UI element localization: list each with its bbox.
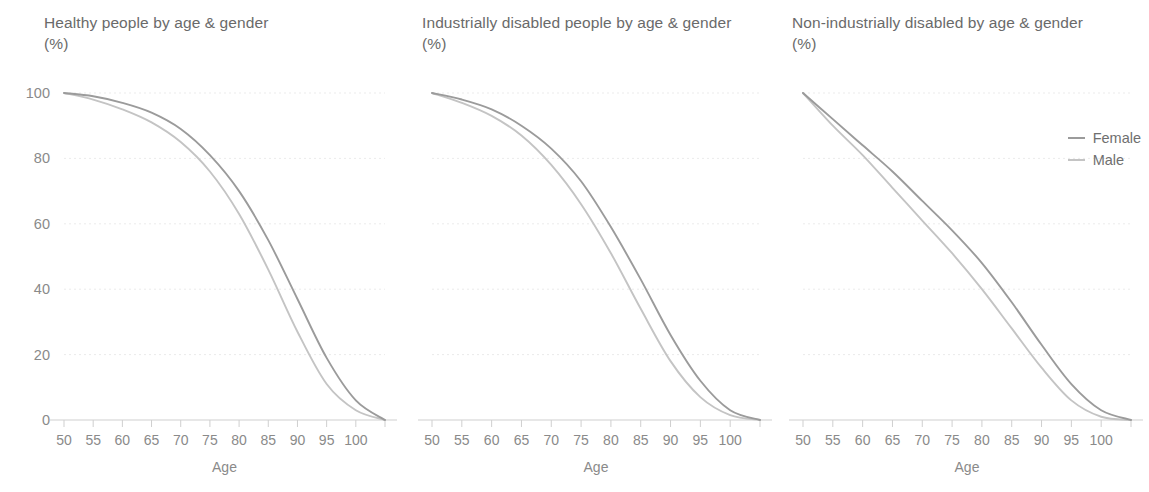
x-axis-tick-label: 90 [663,432,679,448]
x-axis-tick-label: 70 [543,432,559,448]
x-axis-tick-label: 75 [944,432,960,448]
y-axis-tick-label: 20 [34,347,50,363]
x-axis-tick-label: 100 [719,432,743,448]
y-axis-tick-label: 0 [42,412,50,428]
x-axis-tick-label: 50 [424,432,440,448]
chart-panel-healthy: Healthy people by age & gender (%) 02040… [0,0,410,492]
series-line-male [432,93,760,420]
x-axis-tick-label: 80 [974,432,990,448]
x-axis-tick-label: 80 [231,432,247,448]
x-axis-tick-label: 85 [260,432,276,448]
x-axis-tick-label: 60 [855,432,871,448]
x-axis-tick-label: 65 [885,432,901,448]
chart-legend: Female Male [1068,127,1141,171]
plot-area-non-industrially-disabled: 50556065707580859095100Age [780,0,1149,492]
legend-item-female[interactable]: Female [1068,127,1141,149]
x-axis-tick-label: 55 [454,432,470,448]
legend-label-female: Female [1093,130,1141,146]
x-axis-title: Age [212,459,237,475]
x-axis-tick-label: 55 [85,432,101,448]
x-axis-tick-label: 80 [603,432,619,448]
plot-area-healthy: 02040608010050556065707580859095100Age [0,0,410,492]
legend-swatch-female [1068,137,1085,139]
x-axis-tick-label: 95 [1064,432,1080,448]
x-axis-title: Age [955,459,980,475]
x-axis-tick-label: 90 [290,432,306,448]
x-axis-tick-label: 50 [56,432,72,448]
x-axis-tick-label: 70 [914,432,930,448]
x-axis-tick-label: 65 [144,432,160,448]
x-axis-tick-label: 85 [1004,432,1020,448]
chart-panel-industrially-disabled: Industrially disabled people by age & ge… [410,0,780,492]
legend-item-male[interactable]: Male [1068,149,1141,171]
y-axis-tick-label: 80 [34,150,50,166]
y-axis-tick-label: 60 [34,216,50,232]
x-axis-tick-label: 70 [173,432,189,448]
legend-label-male: Male [1093,152,1124,168]
series-line-female [432,93,760,420]
plot-area-industrially-disabled: 50556065707580859095100Age [410,0,780,492]
x-axis-tick-label: 55 [825,432,841,448]
y-axis-tick-label: 100 [26,85,50,101]
x-axis-tick-label: 85 [633,432,649,448]
x-axis-tick-label: 100 [1090,432,1114,448]
x-axis-tick-label: 75 [573,432,589,448]
x-axis-tick-label: 60 [115,432,131,448]
x-axis-tick-label: 95 [319,432,335,448]
y-axis-tick-label: 40 [34,281,50,297]
chart-panel-non-industrially-disabled: Non-industrially disabled by age & gende… [780,0,1149,492]
x-axis-tick-label: 90 [1034,432,1050,448]
x-axis-tick-label: 95 [693,432,709,448]
legend-swatch-male [1068,159,1085,161]
x-axis-tick-label: 50 [795,432,811,448]
series-line-male [64,93,385,420]
x-axis-title: Age [584,459,609,475]
x-axis-tick-label: 100 [344,432,368,448]
series-line-female [64,93,385,420]
x-axis-tick-label: 60 [484,432,500,448]
x-axis-tick-label: 75 [202,432,218,448]
x-axis-tick-label: 65 [514,432,530,448]
chart-panel-group: Healthy people by age & gender (%) 02040… [0,0,1149,492]
